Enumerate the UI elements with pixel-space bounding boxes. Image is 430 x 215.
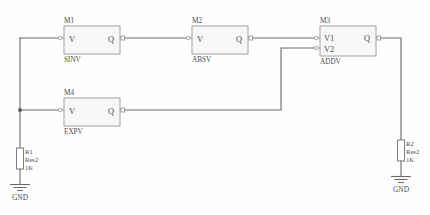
r2-model-label: Res2 [406,148,419,155]
m3-output-pin-marker [377,36,381,40]
m4-output-pin-marker [121,108,125,112]
r2-ref-label: R2 [406,140,414,147]
wire-m3q-to-r2[interactable] [380,38,401,140]
m4-output-label: Q [108,107,114,116]
m3-input2-label: V2 [324,45,334,54]
m1-input-label: V [69,35,75,44]
junction-dot-source [18,108,22,112]
block-m1-sinv[interactable]: M1 V Q SINV [59,17,125,65]
resistor-r1-group[interactable]: R1 Res2 1K GND [10,148,38,202]
m4-input-pin-marker [59,108,62,111]
wire-m4q-to-m3v2[interactable] [124,48,316,110]
r1-value-label: 1K [25,164,33,171]
m4-input-label: V [69,107,75,116]
m4-type-label: EXPV [64,128,84,136]
m2-output-pin-marker [249,36,253,40]
gnd-left-label: GND [12,193,29,202]
m1-input-pin-marker [59,36,62,39]
r1-ref-label: R1 [25,148,33,155]
ground-symbol-left [10,185,30,191]
m2-input-pin-marker [187,36,190,39]
resistor-r2-group[interactable]: R2 Res2 1K GND [391,140,419,194]
m3-input1-label: V1 [324,34,334,43]
gnd-right-label: GND [393,185,410,194]
r1-model-label: Res2 [25,156,38,163]
m2-output-label: Q [236,35,242,44]
m2-input-label: V [197,35,203,44]
m3-ref-label: M3 [320,17,330,25]
m1-output-label: Q [108,35,114,44]
block-m2-absv[interactable]: M2 V Q ABSV [187,17,253,65]
m3-type-label: ADDV [320,58,342,66]
r1-body[interactable] [17,148,24,169]
block-m4-expv[interactable]: M4 V Q EXPV [59,89,125,137]
m1-type-label: SINV [64,56,82,64]
m3-input1-pin-marker [315,36,318,39]
schematic-canvas: M1 V Q SINV M2 V Q ABSV M3 V1 V2 Q ADDV [0,0,430,215]
r2-body[interactable] [398,140,405,161]
m1-output-pin-marker [121,36,125,40]
m4-ref-label: M4 [64,89,74,97]
m2-type-label: ABSV [192,56,212,64]
m3-input2-pin-marker [315,46,318,49]
m3-output-label: Q [364,34,370,43]
ground-symbol-right [391,177,411,183]
m1-ref-label: M1 [64,17,74,25]
block-m3-addv[interactable]: M3 V1 V2 Q ADDV [315,17,381,67]
r2-value-label: 1K [406,156,414,163]
m2-ref-label: M2 [192,17,202,25]
schematic-drawing: M1 V Q SINV M2 V Q ABSV M3 V1 V2 Q ADDV [0,0,430,215]
